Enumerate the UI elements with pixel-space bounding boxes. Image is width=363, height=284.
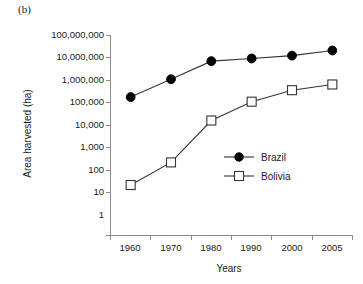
x-tick-label: 1960 [119, 242, 140, 253]
x-tick-label: 2000 [281, 242, 302, 253]
data-point-bolivia-1960 [126, 181, 135, 190]
data-point-brazil-1960 [126, 93, 135, 102]
x-axis-tick-labels: 1960 1970 1980 1990 2000 2005 [119, 242, 342, 253]
y-tick-label: 1,000,000 [62, 74, 104, 85]
data-point-bolivia-1980 [207, 116, 216, 125]
figure-panel-b: (b) Area harvested (ha) Years 100,000,00… [0, 0, 363, 284]
y-tick-label: 100,000,000 [51, 29, 104, 40]
legend-label-brazil: Brazil [261, 152, 286, 163]
y-tick-label: 10 [93, 186, 104, 197]
data-point-brazil-1990 [247, 54, 256, 63]
x-tick-label: 1970 [160, 242, 181, 253]
x-tick-label: 1990 [240, 242, 261, 253]
series-line-bolivia [131, 84, 333, 185]
data-point-brazil-1980 [207, 57, 216, 66]
y-axis [106, 35, 111, 236]
data-point-brazil-1970 [167, 75, 176, 84]
legend-label-bolivia: Bolivia [261, 171, 291, 182]
x-axis [111, 236, 353, 241]
y-tick-label: 100,000 [70, 96, 104, 107]
data-point-bolivia-2005 [328, 80, 337, 89]
series-line-brazil [131, 50, 333, 97]
y-tick-label: 100 [88, 164, 104, 175]
x-tick-label: 1980 [200, 242, 221, 253]
data-series-layer [126, 46, 337, 189]
y-axis-tick-labels: 100,000,000 10,000,000 1,000,000 100,000… [51, 29, 104, 220]
data-point-bolivia-1990 [247, 97, 256, 106]
data-point-bolivia-2000 [288, 86, 297, 95]
legend-marker-bolivia [235, 172, 244, 181]
y-tick-label: 10,000 [75, 119, 104, 130]
legend: Brazil Bolivia [224, 152, 291, 182]
data-point-brazil-2000 [288, 51, 297, 60]
line-chart: 100,000,000 10,000,000 1,000,000 100,000… [0, 0, 363, 284]
y-tick-label: 10,000,000 [56, 51, 104, 62]
y-tick-label: 1 [99, 209, 104, 220]
data-point-brazil-2005 [328, 46, 337, 55]
y-tick-label: 1,000 [80, 141, 104, 152]
legend-marker-brazil [235, 153, 243, 161]
x-tick-label: 2005 [321, 242, 342, 253]
data-point-bolivia-1970 [167, 158, 176, 167]
